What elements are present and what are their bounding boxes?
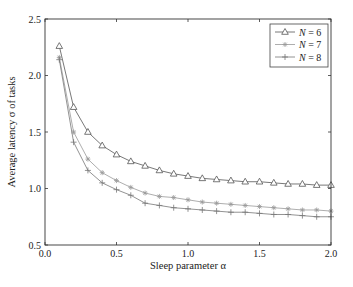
y-tick-label: 2.0 xyxy=(29,70,42,81)
latency-chart: 0.00.51.01.52.0 0.51.01.52.02.5 Sleep pa… xyxy=(0,0,353,287)
x-tick-label: 0.5 xyxy=(110,248,123,259)
x-tick-label: 1.5 xyxy=(253,248,266,259)
series-line xyxy=(57,55,334,214)
x-axis-label: Sleep parameter α xyxy=(150,260,227,271)
x-tick-label: 1.0 xyxy=(182,248,195,259)
series-line xyxy=(56,57,334,220)
plot-area xyxy=(56,43,334,220)
y-tick-label: 0.5 xyxy=(29,240,42,251)
legend-entry: N = 6 xyxy=(298,27,321,38)
y-tick-label: 1.5 xyxy=(29,127,42,138)
legend: N = 6N = 7N = 8 xyxy=(270,24,328,67)
legend-entry: N = 7 xyxy=(298,39,321,50)
y-tick-label: 1.0 xyxy=(29,183,42,194)
y-tick-label: 2.5 xyxy=(29,14,42,25)
legend-entry: N = 8 xyxy=(298,52,321,63)
x-tick-label: 2.0 xyxy=(325,248,338,259)
y-axis-label: Average latency σ of tasks xyxy=(6,76,17,187)
